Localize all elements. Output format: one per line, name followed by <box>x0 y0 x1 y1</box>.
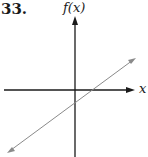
x-axis-arrow-icon <box>126 87 135 93</box>
y-axis-arrow-icon <box>72 16 78 25</box>
y-axis <box>72 16 78 157</box>
function-line <box>7 58 136 153</box>
line-graph <box>0 0 148 157</box>
x-axis <box>4 87 135 93</box>
